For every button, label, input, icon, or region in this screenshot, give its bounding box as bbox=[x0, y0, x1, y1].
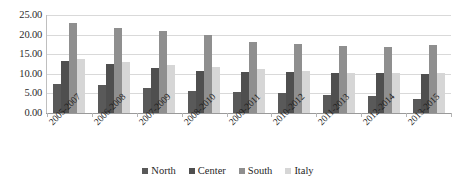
bar-italy bbox=[392, 73, 400, 113]
legend-swatch-icon bbox=[285, 168, 291, 174]
bar-chart: 25.0020.0015.0010.005.000.00 2005-200720… bbox=[0, 0, 456, 189]
bar-italy bbox=[347, 73, 355, 113]
bar-italy bbox=[77, 59, 85, 113]
x-axis-labels: 2005-20072006-20082007-20092008-20102009… bbox=[47, 118, 451, 162]
y-tick-label: 0.00 bbox=[0, 108, 42, 119]
bar-italy bbox=[167, 65, 175, 113]
bar-italy bbox=[212, 67, 220, 113]
x-tick-mark bbox=[316, 113, 317, 117]
x-tick-mark bbox=[271, 113, 272, 117]
x-tick-mark bbox=[182, 113, 183, 117]
x-label-slot: 2008-2010 bbox=[182, 118, 226, 162]
y-axis-labels: 25.0020.0015.0010.005.000.00 bbox=[0, 15, 42, 113]
x-label-slot: 2013-2015 bbox=[406, 118, 450, 162]
bar-italy bbox=[122, 62, 130, 113]
legend-label: Center bbox=[198, 166, 226, 177]
x-tick-mark bbox=[47, 113, 48, 117]
x-label-slot: 2010-2012 bbox=[271, 118, 315, 162]
x-tick-mark bbox=[227, 113, 228, 117]
x-tick-mark bbox=[361, 113, 362, 117]
x-label-slot: 2006-2008 bbox=[92, 118, 136, 162]
x-label-slot: 2009-2011 bbox=[227, 118, 271, 162]
legend-swatch-icon bbox=[189, 168, 195, 174]
x-label-slot: 2007-2009 bbox=[137, 118, 181, 162]
bar-italy bbox=[257, 69, 265, 113]
y-tick-label: 20.00 bbox=[0, 30, 42, 41]
x-tick-mark bbox=[137, 113, 138, 117]
legend-item-north[interactable]: North bbox=[142, 166, 176, 177]
x-tick-mark bbox=[92, 113, 93, 117]
chart-legend: NorthCenterSouthItaly bbox=[0, 166, 456, 177]
x-tick-mark bbox=[451, 113, 452, 117]
y-tick-label: 10.00 bbox=[0, 69, 42, 80]
legend-label: North bbox=[151, 166, 176, 177]
bar-italy bbox=[302, 71, 310, 113]
y-tick-label: 15.00 bbox=[0, 49, 42, 60]
legend-label: Italy bbox=[294, 166, 313, 177]
legend-swatch-icon bbox=[239, 168, 245, 174]
x-label-slot: 2005-2007 bbox=[47, 118, 91, 162]
y-tick-label: 25.00 bbox=[0, 10, 42, 21]
legend-item-italy[interactable]: Italy bbox=[285, 166, 313, 177]
legend-item-south[interactable]: South bbox=[239, 166, 273, 177]
x-label-slot: 2011-2013 bbox=[316, 118, 360, 162]
x-tick-mark bbox=[406, 113, 407, 117]
x-label-slot: 2012-2014 bbox=[361, 118, 405, 162]
legend-swatch-icon bbox=[142, 168, 148, 174]
legend-item-center[interactable]: Center bbox=[189, 166, 226, 177]
y-tick-label: 5.00 bbox=[0, 88, 42, 99]
legend-label: South bbox=[248, 166, 273, 177]
bar-italy bbox=[437, 73, 445, 113]
